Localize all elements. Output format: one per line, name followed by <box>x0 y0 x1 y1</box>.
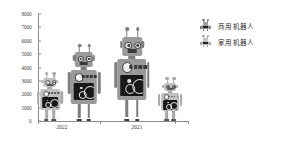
legend-label-household: 家用机器人 <box>218 37 255 47</box>
robot-antenna <box>89 46 90 52</box>
robot-icon-household <box>200 36 211 48</box>
robot-led <box>174 96 176 98</box>
robot-antenna <box>137 30 138 37</box>
y-tick-label: 5000 <box>22 51 35 57</box>
robot-led <box>134 65 138 69</box>
robot-head <box>164 83 176 91</box>
robot-arm <box>68 72 71 93</box>
robot-antenna <box>46 74 47 78</box>
robot-ear <box>73 55 75 61</box>
robot-led <box>94 75 97 78</box>
robot-body <box>40 89 60 110</box>
robot-antenna <box>54 74 55 78</box>
y-tick-mark <box>38 67 41 68</box>
y-tick-mark <box>38 54 41 55</box>
robot-pictograph-chart: 800070006000500040003000200010000 202220… <box>0 0 282 149</box>
x-tick-mark <box>100 121 101 124</box>
robot-ear <box>57 80 59 84</box>
robot-body <box>71 70 97 104</box>
robot-led <box>144 65 148 69</box>
robot-mouth <box>80 62 88 65</box>
robot-legs <box>164 111 176 121</box>
x-tick-label: 2022 <box>57 124 68 130</box>
robot-figure <box>70 46 99 121</box>
robot-figure <box>116 30 148 121</box>
robot-arm <box>61 91 64 104</box>
robot-led <box>177 96 179 98</box>
robot-foot <box>44 119 49 121</box>
robot-screen-dot <box>127 79 130 82</box>
robot-led-row <box>81 75 96 78</box>
robot-led <box>168 96 170 98</box>
x-axis-line <box>38 121 188 122</box>
robot-led <box>81 75 84 78</box>
y-tick-mark <box>38 27 41 28</box>
y-tick-mark <box>38 14 41 15</box>
robot-led <box>139 65 143 69</box>
robot-mouth <box>47 84 53 86</box>
robot-body <box>118 59 147 100</box>
robot-gear-small <box>126 84 136 94</box>
robot-screen <box>74 83 94 100</box>
robot-eye <box>125 42 133 50</box>
legend-item-commercial[interactable]: 商用机器人 <box>200 18 255 33</box>
robot-led-row <box>168 96 178 98</box>
robot-gear-small <box>78 91 86 99</box>
y-tick-label: 7000 <box>22 24 35 30</box>
robot-antenna <box>127 30 128 37</box>
robot-legs <box>123 100 142 121</box>
robot-foot <box>51 119 56 121</box>
robot-foot <box>124 119 129 121</box>
robot-led <box>51 92 53 94</box>
robot-screen-dot <box>47 100 49 102</box>
robot-ear <box>142 41 144 48</box>
y-tick-label: 1000 <box>22 105 35 111</box>
robot-leg <box>172 111 175 119</box>
robot-foot <box>77 119 82 121</box>
robot-mouth <box>167 88 173 90</box>
robot-led <box>129 65 133 69</box>
robot-antennas <box>39 74 61 78</box>
legend: 商用机器人 家用机器人 <box>200 18 255 50</box>
robot-head <box>122 37 142 56</box>
robot-figure <box>160 80 180 121</box>
robot-screen <box>163 100 177 109</box>
robot-ear <box>120 41 122 48</box>
robot-figure <box>39 74 61 121</box>
robot-screen <box>42 97 58 108</box>
robot-foot <box>171 119 176 121</box>
robot-led <box>48 92 50 94</box>
robot-antennas <box>70 46 99 52</box>
robot-head <box>43 78 56 88</box>
robot-eye <box>134 42 142 50</box>
robot-screen-dot <box>80 87 83 90</box>
robot-screen-dot <box>167 102 169 104</box>
robot-foot <box>86 119 91 121</box>
robot-led-row <box>48 92 59 94</box>
robot-leg <box>87 104 90 118</box>
y-tick-label: 4000 <box>22 65 35 71</box>
y-tick-label: 0 <box>29 118 35 124</box>
robot-screen <box>121 75 144 96</box>
y-tick-label: 2000 <box>22 91 35 97</box>
robot-antennas <box>116 30 148 37</box>
robot-leg <box>125 100 128 117</box>
robot-leg <box>165 111 168 119</box>
robot-leg <box>78 104 81 118</box>
y-tick-mark <box>38 40 41 41</box>
x-tick-label: 2021 <box>132 124 143 130</box>
robot-arm <box>158 94 161 106</box>
robot-led <box>90 75 93 78</box>
robot-gear-small <box>166 104 172 109</box>
robot-arm <box>37 91 40 104</box>
robot-ear <box>93 55 95 61</box>
robot-ear <box>162 85 164 88</box>
robot-ear <box>176 85 178 88</box>
robot-head <box>75 52 93 67</box>
robot-led-row <box>129 65 147 69</box>
robot-leg <box>45 110 48 119</box>
robot-leg <box>136 100 139 117</box>
robot-ear <box>41 80 43 84</box>
x-tick-mark <box>175 121 176 124</box>
legend-item-household[interactable]: 家用机器人 <box>200 34 255 49</box>
